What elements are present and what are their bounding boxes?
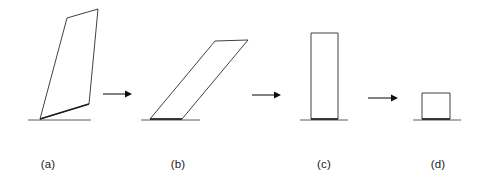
- panel-label-a: (a): [41, 158, 56, 170]
- panel-a-group: [28, 9, 98, 120]
- panel-b-group: [141, 40, 248, 120]
- diagram-canvas: [0, 0, 478, 193]
- small-square-d: [422, 93, 450, 119]
- leaning-quadrilateral-a: [40, 9, 98, 119]
- panel-d-group: [413, 93, 461, 120]
- arrow-c-to-d: [368, 95, 398, 102]
- panel-label-b: (b): [171, 158, 186, 170]
- arrow-head-2: [274, 92, 281, 99]
- figure-container: (a) (b) (c) (d): [0, 0, 478, 193]
- leaning-parallelogram-b: [150, 40, 248, 119]
- arrow-head-3: [391, 95, 398, 102]
- arrow-a-to-b: [103, 91, 132, 98]
- panel-label-c: (c): [317, 158, 331, 170]
- arrow-b-to-c: [252, 92, 281, 99]
- arrow-head-1: [125, 91, 132, 98]
- upright-rectangle-c: [311, 33, 338, 119]
- panel-label-d: (d): [431, 158, 446, 170]
- base-line-a: [40, 104, 89, 119]
- panel-c-group: [300, 33, 348, 120]
